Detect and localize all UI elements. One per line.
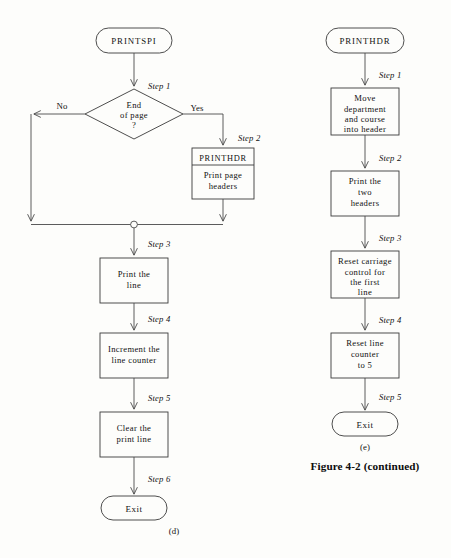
right-exit-terminal-label: Exit: [357, 420, 374, 430]
predefined-process-printhdr: PRINTHDR Print page headers: [192, 148, 254, 199]
process-step4-line-2: line counter: [111, 355, 156, 365]
predefined-process-body-line-1: Print page: [204, 170, 243, 180]
right-step3-line-1: Reset carriage: [338, 256, 392, 266]
process-increment-line-counter: Increment the line counter: [100, 333, 168, 378]
left-step2-label: Step 2: [238, 133, 261, 143]
connector-yes-branch: [183, 114, 223, 145]
left-step3-label: Step 3: [148, 239, 170, 249]
figure-page: PRINTSPI Step 1 End of page ? Yes No Ste…: [0, 0, 451, 558]
right-step4-line-1: Reset line: [346, 338, 384, 348]
part-label-d: (d): [169, 526, 179, 536]
figure-caption: Figure 4-2 (continued): [311, 460, 420, 473]
right-step3-line-4: line: [358, 287, 372, 297]
right-step2-line-3: headers: [351, 198, 380, 208]
decision-line-2: of page: [120, 110, 148, 120]
flowchart-canvas: PRINTSPI Step 1 End of page ? Yes No Ste…: [0, 0, 451, 558]
right-step4-line-3: to 5: [358, 360, 373, 370]
left-step6-label: Step 6: [148, 474, 171, 484]
right-step2-line-1: Print the: [349, 176, 382, 186]
right-step1-line-4: into header: [344, 124, 386, 134]
right-step1-label: Step 1: [379, 70, 401, 80]
process-reset-carriage-control: Reset carriage control for the first lin…: [331, 251, 399, 298]
decision-line-3: ?: [132, 120, 136, 130]
decision-yes-label: Yes: [191, 103, 204, 113]
part-label-e: (e): [360, 442, 370, 452]
right-step3-line-2: control for: [345, 267, 385, 277]
process-step3-line-1: Print the: [118, 269, 151, 279]
right-start-terminal-label: PRINTHDR: [339, 36, 390, 46]
left-start-terminal: PRINTSPI: [96, 28, 172, 53]
process-move-department-course: Move department and course into header: [331, 88, 399, 135]
left-exit-terminal: Exit: [101, 496, 167, 520]
right-step4-line-2: counter: [351, 349, 379, 359]
process-clear-print-line: Clear the print line: [100, 412, 168, 457]
right-step1-line-2: department: [344, 104, 386, 114]
predefined-process-body-line-2: headers: [209, 181, 238, 191]
process-step3-line-2: line: [127, 280, 141, 290]
left-step4-label: Step 4: [148, 314, 171, 324]
process-step4-line-1: Increment the: [108, 344, 160, 354]
right-step3-label: Step 3: [379, 233, 401, 243]
process-print-the-line: Print the line: [100, 258, 168, 303]
decision-no-label: No: [57, 101, 68, 111]
right-step4-label: Step 4: [379, 315, 402, 325]
decision-line-1: End: [127, 100, 142, 110]
right-step1-line-1: Move: [354, 93, 375, 103]
predefined-process-header: PRINTHDR: [199, 154, 246, 163]
right-start-terminal: PRINTHDR: [326, 28, 404, 53]
right-step5-label: Step 5: [379, 392, 402, 402]
left-exit-terminal-label: Exit: [126, 504, 143, 514]
right-step1-line-3: and course: [345, 114, 386, 124]
process-step5-line-1: Clear the: [117, 423, 151, 433]
decision-end-of-page: End of page ?: [85, 89, 183, 139]
left-step1-label: Step 1: [148, 81, 170, 91]
left-step5-label: Step 5: [148, 393, 171, 403]
process-step5-line-2: print line: [117, 434, 152, 444]
right-step3-line-3: the first: [350, 277, 380, 287]
right-exit-terminal: Exit: [332, 412, 398, 436]
process-print-two-headers: Print the two headers: [331, 171, 399, 216]
right-step2-label: Step 2: [379, 153, 402, 163]
merge-junction-node: [131, 221, 138, 228]
left-start-terminal-label: PRINTSPI: [111, 36, 156, 46]
process-reset-line-counter: Reset line counter to 5: [331, 333, 399, 378]
right-step2-line-2: two: [358, 187, 372, 197]
